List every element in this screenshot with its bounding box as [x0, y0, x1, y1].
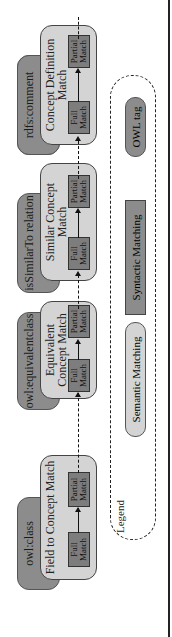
dashed-connector	[78, 17, 79, 39]
arrow-head	[75, 339, 81, 344]
legend-owl-tag-label: OWL tag	[130, 107, 142, 148]
arrow-head	[75, 507, 81, 512]
matching-diagram: owl:class Field to Concept Match Full Ma…	[0, 0, 172, 637]
partial-match-label: Partial Match	[70, 473, 88, 506]
arrow-head	[75, 136, 81, 141]
connector	[78, 73, 79, 102]
group-field-to-concept: Field to Concept Match Full Match Partia…	[40, 455, 97, 580]
full-match-label: Full Match	[70, 238, 88, 269]
arrow-head	[75, 208, 81, 213]
partial-match-label: Partial Match	[70, 36, 88, 67]
connector	[78, 343, 79, 360]
arrow-head	[75, 271, 81, 276]
dashed-connector	[78, 393, 79, 473]
partial-match-label: Partial Match	[70, 306, 88, 337]
connector	[78, 213, 79, 238]
dashed-connector	[78, 275, 79, 309]
full-match-label: Full Match	[70, 533, 88, 566]
full-match-box: Full Match	[68, 101, 90, 134]
owl-tag-label: owl:class	[22, 521, 37, 566]
full-match-box: Full Match	[68, 359, 90, 392]
owl-tag-label: rdfs:comment	[22, 72, 37, 139]
group-concept-definition: Concept Definition Match Full Match Part…	[40, 25, 97, 145]
partial-match-box: Partial Match	[68, 472, 90, 507]
group-title: Concept Definition Match	[44, 26, 68, 144]
page-edge-divider	[168, 0, 170, 637]
full-match-label: Full Match	[70, 360, 88, 391]
group-title: Field to Concept Match	[44, 456, 56, 579]
full-match-label: Full Match	[70, 102, 88, 133]
group-equivalent-concept: Equivalent Concept Match Full Match Part…	[40, 301, 97, 399]
legend-semantic-matching: Semantic Matching	[125, 322, 146, 437]
group-similar-concept: Similar Concept Match Full Match Partial…	[40, 163, 97, 281]
partial-match-box: Partial Match	[68, 175, 90, 208]
dashed-connector	[78, 141, 79, 179]
partial-match-label: Partial Match	[70, 176, 88, 207]
full-match-box: Full Match	[68, 237, 90, 270]
legend-syntactic-label: Syntactic Matching	[130, 215, 142, 301]
partial-match-box: Partial Match	[68, 35, 90, 68]
group-title: Equivalent Concept Match	[44, 302, 68, 398]
legend-syntactic-matching: Syntactic Matching	[125, 200, 146, 315]
arrow-head	[75, 68, 81, 73]
group-title: Similar Concept Match	[44, 164, 68, 280]
arrow-head	[75, 392, 81, 397]
legend-semantic-label: Semantic Matching	[130, 337, 142, 423]
full-match-box: Full Match	[68, 532, 90, 567]
partial-match-box: Partial Match	[68, 305, 90, 338]
legend-owl-tag: OWL tag	[125, 97, 146, 157]
owl-tag-label: owl:equivalentclass	[22, 314, 37, 409]
owl-tag-label: isSimilarTo relation	[22, 195, 37, 290]
legend-label: Legend	[114, 500, 126, 533]
